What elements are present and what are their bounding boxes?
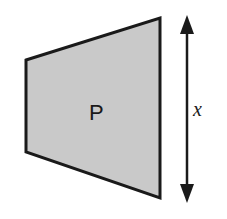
diagram-canvas: P x xyxy=(0,0,227,219)
arrow-down-icon xyxy=(180,184,194,203)
dimension-label: x xyxy=(192,98,202,120)
shape-label: P xyxy=(89,100,104,125)
arrow-up-icon xyxy=(180,15,194,34)
dimension-arrow xyxy=(180,15,194,203)
